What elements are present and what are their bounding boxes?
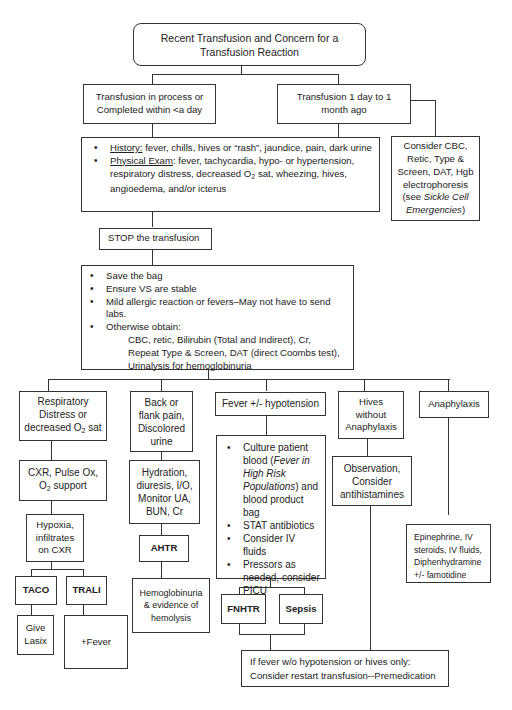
taco-node: TACO [15, 576, 57, 605]
stop-transfusion-node: STOP the transfusion [99, 228, 212, 250]
exam-text: respiratory distress, decreased O [110, 168, 251, 179]
lasix-line: Give [26, 622, 46, 635]
hives-line: Hives [359, 396, 383, 409]
exam-text: sat, wheezing, hives, [255, 168, 347, 179]
taco-label: TACO [23, 584, 49, 597]
hemolysis-line: hemolysis [151, 612, 191, 625]
hemolysis-node: Hemoglobinuria & evidence of hemolysis [132, 578, 210, 633]
branch-recent-line-1: Transfusion in process or [96, 91, 203, 104]
branch-recent-node: Transfusion in process or Completed with… [83, 84, 216, 124]
hydration-line: BUN, Cr [146, 505, 183, 518]
connector [51, 440, 52, 460]
back-line: urine [150, 435, 172, 448]
hydration-line: Monitor UA, [138, 492, 191, 505]
trali-node: TRALI [66, 576, 107, 605]
fever-action-item: STAT antibiotics [243, 519, 321, 532]
hypoxia-line: Hypoxia, [36, 519, 73, 532]
resp-text: sat [86, 422, 102, 433]
trali-fever-label: +Fever [81, 636, 111, 649]
back-line: Discolored [138, 422, 185, 435]
respiratory-node: Respiratory Distress or decreased O2 sat [19, 391, 107, 441]
resp-text: support [51, 480, 87, 491]
root-line-2: Transfusion Reaction [200, 45, 299, 59]
restart-line: If fever w/o hypotension or hives only: [250, 655, 448, 669]
observation-line: Observation, [344, 462, 401, 475]
history-item: History: fever, chills, hives or “rash”,… [110, 142, 373, 155]
hypoxia-node: Hypoxia, infiltrates on CXR [26, 514, 84, 562]
fnhtr-label: FNHTR [227, 603, 260, 616]
fever-action-item: Culture patient blood (Fever in High Ris… [243, 441, 321, 519]
restart-line: Consider restart transfusion--Premedicat… [250, 669, 448, 683]
resp-line: decreased O2 sat [24, 421, 101, 437]
hemolysis-line: & evidence of [144, 599, 199, 612]
connector [161, 379, 162, 391]
hydration-line: Hydration, [142, 466, 188, 479]
connector [161, 451, 162, 460]
action-item: Otherwise obtain: [106, 321, 347, 334]
labs-list: CBC, retic, Bilirubin (Total and Indirec… [84, 334, 347, 372]
resp-action-line: O2 support [39, 479, 87, 495]
observation-line: Consider [352, 475, 392, 488]
action-item: Save the bag [106, 270, 347, 283]
sickle-cell-reference: Sickle Cell [424, 191, 469, 202]
exam-item: Physical Exam: fever, tachycardia, hypo-… [110, 155, 373, 196]
restart-transfusion-node: If fever w/o hypotension or hives only: … [241, 650, 449, 687]
fever-trali-node: +Fever [64, 615, 128, 669]
sickle-line: Emergencies) [406, 204, 465, 217]
action-item: Ensure VS are stable [106, 283, 347, 296]
back-pain-node: Back or flank pain, Discolored urine [130, 391, 193, 452]
connector [161, 523, 162, 535]
hypoxia-line: infiltrates [36, 532, 74, 545]
hives-node: Hives without Anaphylaxis [338, 391, 404, 439]
connector [410, 100, 436, 101]
trali-label: TRALI [72, 584, 100, 597]
anaphylaxis-line: +/- famotidine [414, 569, 490, 582]
fever-node: Fever +/- hypotension [215, 392, 326, 416]
connector [152, 74, 339, 75]
history-exam-node: History: fever, chills, hives or “rash”,… [81, 137, 380, 212]
actions-node: Save the bag Ensure VS are stable Mild a… [81, 265, 354, 370]
sepsis-node: Sepsis [279, 594, 323, 624]
observation-node: Observation, Consider antihistamines [332, 456, 412, 506]
lab-line: Urinalysis for hemoglobinuria [128, 360, 347, 373]
anaphylaxis-line: steroids, IV fluids, [414, 544, 490, 557]
ahtr-label: AHTR [151, 542, 178, 555]
sickle-line: Consider CBC, [404, 140, 468, 153]
ahtr-node: AHTR [139, 535, 189, 562]
sickle-text: ) [462, 204, 465, 215]
root-line-1: Recent Transfusion and Concern for a [161, 31, 338, 45]
anaphylaxis-line: Epinephrine, IV [414, 531, 490, 544]
branch-delayed-node: Transfusion 1 day to 1 month ago [277, 84, 411, 124]
resp-text: O [39, 480, 47, 491]
history-label: History: [110, 142, 143, 153]
anaphylaxis-treatment-node: Epinephrine, IV steroids, IV fluids, Dip… [406, 524, 491, 583]
fever-label: Fever +/- hypotension [222, 398, 319, 411]
anaphylaxis-line: Diphenhydramine [414, 556, 490, 569]
connector [83, 569, 84, 576]
connector [364, 379, 365, 391]
branch-delayed-line-2: month ago [321, 104, 366, 117]
connector [51, 500, 52, 514]
connector [48, 379, 450, 380]
sickle-cell-reference: Emergencies [406, 204, 462, 215]
connector [266, 379, 267, 391]
back-line: Back or [145, 396, 179, 409]
branch-recent-line-2: Completed within <a day [97, 104, 202, 117]
connector [239, 634, 305, 635]
resp-action-node: CXR, Pulse Ox, O2 support [19, 460, 107, 501]
anaphylaxis-node: Anaphylaxis [419, 391, 489, 418]
connector [31, 569, 84, 570]
connector [152, 74, 153, 84]
connector [152, 123, 153, 138]
connector [31, 569, 32, 576]
sickle-line: (see Sickle Cell [402, 191, 468, 204]
exam-text: angioedema, and/or icterus [110, 183, 226, 194]
connector [270, 634, 271, 650]
exam-text: : fever, tachycardia, hypo- or hypertens… [173, 155, 354, 166]
hives-line: without [356, 409, 386, 422]
give-lasix-node: Give Lasix [17, 615, 54, 655]
connector [152, 211, 153, 227]
branch-delayed-line-1: Transfusion 1 day to 1 [297, 91, 392, 104]
history-text: fever, chills, hives or “rash”, jaundice… [143, 142, 372, 153]
sickle-cell-node: Consider CBC, Retic, Type & Screen, DAT,… [391, 136, 480, 221]
